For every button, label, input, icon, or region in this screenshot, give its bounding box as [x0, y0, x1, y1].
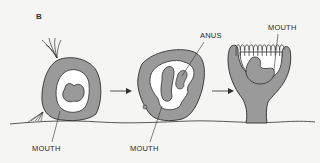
tentacle — [240, 45, 244, 50]
stage1-top-tuft — [42, 38, 61, 58]
tentacle — [249, 45, 253, 50]
stage1-mouth-label: MOUTH — [32, 145, 61, 153]
tentacle — [271, 45, 275, 50]
arrow-2-head — [228, 88, 234, 94]
arrow-1 — [110, 88, 132, 94]
stage3-organism — [228, 34, 291, 123]
stage1-gut — [63, 84, 84, 102]
tentacle — [267, 45, 271, 50]
stage2-bump — [143, 105, 147, 109]
tentacle — [253, 45, 257, 50]
stage2-gut — [161, 66, 174, 101]
arrow-2 — [212, 88, 234, 94]
tentacle — [275, 45, 279, 50]
arrow-1-head — [126, 88, 132, 94]
stage2-organism — [138, 42, 205, 142]
stage2-anus-label: ANUS — [200, 32, 222, 40]
tentacle — [258, 45, 262, 50]
tentacle — [262, 45, 266, 50]
stage2-mouth-label: MOUTH — [130, 145, 159, 153]
stage1-base-tuft — [28, 112, 43, 122]
stage3-mouth-label: MOUTH — [268, 24, 297, 32]
ground-line — [10, 121, 315, 124]
stage1-organism — [28, 38, 101, 142]
diagram-panel: B — [0, 0, 320, 163]
tentacle — [245, 45, 249, 50]
